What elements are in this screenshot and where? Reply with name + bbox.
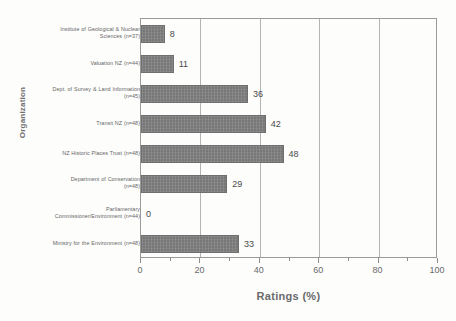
bar-value-label: 0 [146, 209, 151, 219]
bar-row: 0 [141, 205, 438, 223]
bar [141, 175, 227, 193]
y-axis-tick-label: Valuation NZ (n=44) [16, 60, 140, 67]
y-axis-tick-label: Department of Conservation(n=48) [16, 176, 140, 189]
x-axis-tick-label: 60 [313, 265, 323, 275]
bar [141, 85, 248, 103]
y-axis-tick-label: ParliamentaryCommissioner/Environment (n… [16, 206, 140, 219]
bar-chart: Organization Institute of Geological & N… [0, 0, 456, 321]
bar-value-label: 8 [170, 29, 175, 39]
x-axis-major-tick [318, 258, 319, 263]
bar [141, 115, 266, 133]
bar-row: 29 [141, 175, 438, 193]
x-axis-minor-tick [407, 258, 408, 261]
y-axis-tick-label: Ministry for the Environment (n=48) [16, 240, 140, 247]
x-axis-major-tick [437, 258, 438, 263]
x-axis-tick-label: 20 [194, 265, 204, 275]
x-axis-tick-label: 100 [429, 265, 444, 275]
y-axis-tick-label: Dept. of Survey & Land Information(n=45) [16, 86, 140, 99]
x-axis-major-tick [378, 258, 379, 263]
y-axis-tick-labels: Institute of Geological & NuclearScience… [16, 18, 140, 258]
bar [141, 145, 284, 163]
bar-value-label: 11 [179, 59, 188, 69]
x-axis: 020406080100 [140, 258, 437, 284]
x-axis-title: Ratings (%) [140, 290, 437, 302]
x-axis-minor-tick [348, 258, 349, 261]
bar [141, 25, 165, 43]
x-axis-major-tick [140, 258, 141, 263]
bar-value-label: 33 [244, 239, 254, 249]
y-axis-tick-label: Transit NZ (n=48) [16, 120, 140, 127]
bar-value-label: 36 [253, 89, 263, 99]
x-axis-major-tick [199, 258, 200, 263]
bar [141, 55, 174, 73]
bar-row: 36 [141, 85, 438, 103]
bar-row: 8 [141, 25, 438, 43]
bar [141, 235, 239, 253]
x-axis-tick-label: 0 [137, 265, 142, 275]
x-axis-minor-tick [289, 258, 290, 261]
y-axis-tick-label: Institute of Geological & NuclearScience… [16, 26, 140, 39]
bar-value-label: 29 [232, 179, 242, 189]
bar-value-label: 42 [271, 119, 281, 129]
x-axis-tick-label: 80 [373, 265, 383, 275]
x-axis-minor-tick [229, 258, 230, 261]
x-axis-major-tick [259, 258, 260, 263]
plot-area: 81136424829033 [140, 18, 437, 258]
x-axis-minor-tick [170, 258, 171, 261]
x-axis-tick-label: 40 [254, 265, 264, 275]
bar-row: 33 [141, 235, 438, 253]
bar-row: 42 [141, 115, 438, 133]
y-axis-tick-label: NZ Historic Places Trust (n=48) [16, 150, 140, 157]
bar-row: 48 [141, 145, 438, 163]
bar-row: 11 [141, 55, 438, 73]
bar-value-label: 48 [289, 149, 299, 159]
